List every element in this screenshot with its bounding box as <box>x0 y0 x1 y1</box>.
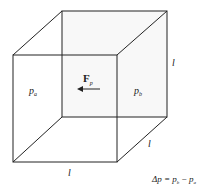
pressure-a-label: pa <box>28 85 37 97</box>
edge-depth-label: l <box>148 138 151 149</box>
edge-vertical-label: l <box>172 57 175 68</box>
back-face <box>62 11 167 117</box>
edge-top-left <box>13 11 62 55</box>
edge-bottom-left <box>13 117 62 162</box>
edge-bottom-right <box>117 117 167 162</box>
edge-horizontal-label: l <box>68 167 71 178</box>
cube-diagram: Fp pa pb l l l Δp = pb − pa <box>0 0 216 190</box>
pressure-difference-equation: Δp = pb − pa <box>151 174 196 185</box>
